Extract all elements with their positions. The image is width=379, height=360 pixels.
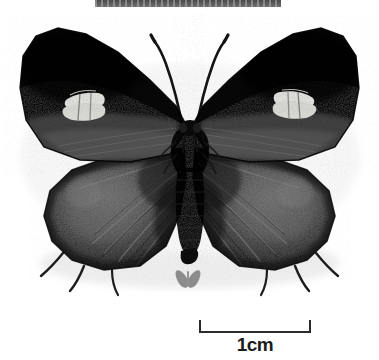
scale-bar: 1cm (199, 320, 311, 358)
specimen-plate: 1cm (0, 0, 379, 360)
butterfly-specimen-image (0, 8, 379, 300)
specimen-svg (0, 8, 379, 300)
scale-bar-bracket (199, 320, 311, 333)
silhouette-svg (174, 268, 202, 292)
caption-band (95, 0, 281, 7)
caption-band-texture (95, 0, 281, 7)
scale-bar-label: 1cm (199, 334, 311, 356)
butterfly-silhouette-icon (174, 268, 202, 292)
